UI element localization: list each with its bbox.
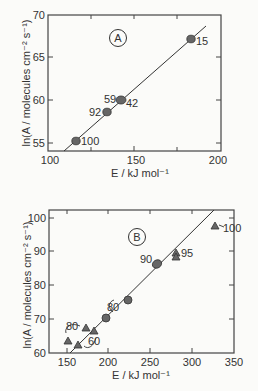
b-y-axis-label: ln(A / molecules cm⁻² s⁻¹)	[21, 222, 33, 349]
a-point-92	[103, 108, 111, 116]
b-ytick-60: 60	[34, 347, 46, 359]
b-xtick-350: 350	[225, 356, 243, 368]
a-ann-15: 15	[196, 35, 208, 47]
b-triangle-point-100	[211, 222, 219, 229]
a-ann-59: 59	[104, 93, 116, 105]
a-xtick-150: 150	[127, 154, 145, 166]
a-ann-42: 42	[126, 97, 138, 109]
a-ann-92: 92	[89, 106, 101, 118]
a-xtick-200: 200	[209, 154, 227, 166]
a-ytick-55: 55	[33, 137, 45, 149]
a-fit-line	[64, 26, 206, 151]
b-ann-60: 60	[88, 335, 100, 347]
b-ann-80-triangle: 80	[66, 320, 78, 332]
b-ann-100: 100	[223, 222, 241, 234]
b-triangle-point	[90, 327, 98, 334]
a-ann-100: 100	[81, 135, 99, 147]
b-ytick-80: 80	[34, 279, 46, 291]
b-xtick-250: 250	[141, 356, 159, 368]
b-ann-95: 95	[181, 247, 193, 259]
b-ann-90: 90	[140, 253, 152, 265]
a-xtick-100: 100	[41, 154, 59, 166]
b-ytick-70: 70	[34, 313, 46, 325]
b-ann-80-circle: 80	[107, 301, 119, 313]
panel-a: 70 65 60 55 100 150 200 E / kJ mol⁻¹ ln(…	[20, 9, 227, 179]
a-point-15	[187, 35, 195, 43]
a-x-axis-label: E / kJ mol⁻¹	[111, 167, 169, 179]
a-point-59-42	[116, 96, 126, 104]
svg-text:A: A	[114, 32, 122, 44]
svg-text:B: B	[133, 231, 140, 243]
b-circle-point-80	[124, 296, 132, 304]
b-xtick-200: 200	[99, 356, 117, 368]
b-xtick-300: 300	[183, 356, 201, 368]
panel-b-badge: B	[129, 229, 146, 246]
a-ytick-65: 65	[33, 51, 45, 63]
b-circle-point-90	[151, 258, 163, 270]
a-ytick-60: 60	[33, 94, 45, 106]
b-circle-point	[102, 314, 110, 322]
b-xtick-150: 150	[58, 356, 76, 368]
a-y-axis-label: ln(A / molecules cm⁻² s⁻¹)	[20, 20, 32, 147]
a-ytick-70: 70	[33, 9, 45, 21]
panel-a-badge: A	[110, 30, 127, 47]
b-triangle-point-80	[82, 324, 90, 331]
panel-b: 100 90 80 70 60 150 200 250 300 350 E / …	[21, 210, 243, 381]
figure: 70 65 60 55 100 150 200 E / kJ mol⁻¹ ln(…	[0, 0, 258, 391]
a-point-100	[72, 137, 80, 145]
b-triangle-point	[64, 337, 72, 344]
b-ytick-90: 90	[34, 245, 46, 257]
b-x-axis-label: E / kJ mol⁻¹	[112, 369, 170, 381]
